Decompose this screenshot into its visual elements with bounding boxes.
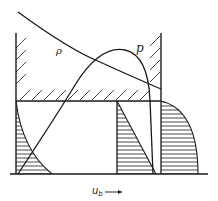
diagram: ρ p ub bbox=[0, 0, 218, 201]
right-wall-hatch bbox=[150, 36, 160, 82]
x-axis-label: ub bbox=[92, 185, 122, 198]
hatched-band bbox=[20, 90, 150, 100]
svg-text:ub: ub bbox=[92, 185, 103, 198]
p-label: p bbox=[136, 41, 144, 55]
rho-label: ρ bbox=[55, 45, 62, 56]
left-velocity-profile bbox=[16, 101, 52, 174]
right-velocity-profile bbox=[161, 101, 198, 174]
left-wall-hatch bbox=[16, 38, 26, 84]
